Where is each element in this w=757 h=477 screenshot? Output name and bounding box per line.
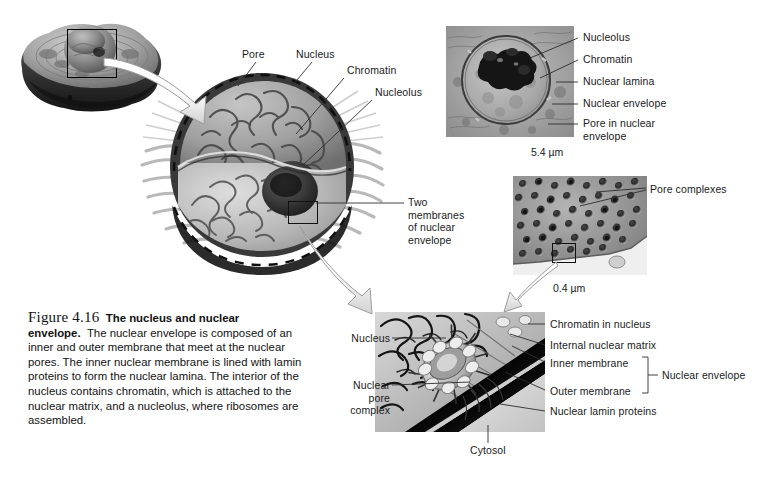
label-nucleus-cutaway: Nucleus [296, 48, 335, 61]
label-internal-nuclear-matrix: Internal nuclear matrix [550, 339, 656, 352]
pore-complex-zoom-box [552, 243, 576, 263]
label-chromatin-cutaway: Chromatin [347, 64, 396, 77]
scale-bar-freeze-fracture: 0.4 µm [553, 282, 585, 294]
scale-bar-tem: 5.4 µm [531, 146, 563, 158]
label-nucleus-detail: Nucleus [330, 332, 390, 345]
figure-canvas: Pore Nucleus Chromatin Nucleolus Two mem… [0, 0, 757, 477]
cell-overview-zoom-box [67, 29, 117, 78]
label-nuclear-lamin-proteins: Nuclear lamin proteins [550, 405, 657, 418]
figure-body: The nuclear envelope is composed of an i… [28, 327, 301, 427]
freeze-fracture-pore-micrograph [513, 176, 647, 275]
label-inner-membrane: Inner membrane [550, 357, 628, 370]
figure-caption: Figure 4.16 The nucleus and nuclear enve… [28, 310, 318, 428]
nucleus-envelope-zoom-box [288, 201, 318, 224]
label-pore-complexes: Pore complexes [650, 183, 727, 196]
figure-number: Figure 4.16 [28, 309, 99, 325]
label-nuclear-envelope-tem: Nuclear envelope [583, 97, 666, 110]
tem-nucleus-micrograph [446, 26, 574, 137]
label-two-membranes: Two membranes of nuclear envelope [408, 196, 464, 246]
label-cytosol: Cytosol [470, 444, 506, 457]
nuclear-pore-complex-detail-illustration [375, 312, 545, 432]
label-nuclear-lamina: Nuclear lamina [583, 75, 654, 88]
label-pore: Pore [242, 48, 265, 61]
label-nucleolus-tem: Nucleolus [583, 31, 630, 44]
label-nuclear-pore-complex: Nuclear pore complex [328, 379, 390, 417]
label-chromatin-tem: Chromatin [583, 53, 632, 66]
nucleus-cutaway-illustration [140, 55, 385, 300]
label-nucleolus-cutaway: Nucleolus [375, 86, 422, 99]
label-chromatin-in-nucleus: Chromatin in nucleus [550, 318, 651, 331]
label-nuclear-envelope-bracket: Nuclear envelope [662, 369, 745, 382]
label-outer-membrane: Outer membrane [550, 385, 631, 398]
label-pore-in-nuclear-envelope: Pore in nuclear envelope [583, 117, 655, 142]
